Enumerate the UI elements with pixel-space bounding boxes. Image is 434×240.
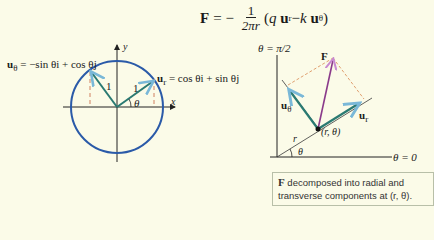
- y-axis-label: y: [123, 41, 127, 52]
- angle-label: θ: [298, 146, 303, 157]
- u-r-expression: = cos θi + sin θj: [166, 72, 239, 84]
- u-theta-vector: [92, 73, 117, 107]
- dashed-parallelogram-right: [333, 58, 364, 99]
- u-r-definition: ur = cos θi + sin θj: [157, 72, 239, 87]
- length-label-r: 1: [133, 82, 139, 94]
- u-theta-label: uθ: [281, 99, 291, 114]
- radius-label: r: [293, 133, 297, 144]
- length-label-theta: 1: [106, 80, 112, 92]
- u-theta-vector: [290, 91, 318, 129]
- force-label: F: [321, 50, 328, 62]
- point-r-theta: [316, 127, 321, 132]
- r-subscript: r: [365, 114, 368, 124]
- angle-label: θ: [134, 97, 139, 109]
- u-theta-definition: uθ = −sin θi + cos θj: [7, 58, 97, 73]
- theta-arc: [129, 99, 131, 107]
- caption-force-symbol: F: [278, 176, 285, 188]
- theta-pi-half-label: θ = π/2: [258, 42, 290, 54]
- figure-caption: F decomposed into radial and transverse …: [272, 172, 434, 206]
- point-label: (r, θ): [321, 126, 340, 137]
- force-vector: [318, 60, 333, 129]
- x-axis-label: x: [171, 96, 175, 107]
- u-theta-expression: = −sin θi + cos θj: [17, 58, 96, 70]
- caption-text: decomposed into radial and transverse co…: [278, 177, 412, 201]
- theta-arc: [290, 149, 292, 157]
- u-r-label: ur: [359, 109, 368, 124]
- theta-zero-label: θ = 0: [393, 151, 417, 163]
- theta-subscript: θ: [287, 104, 291, 114]
- dashed-parallelogram-top: [288, 58, 333, 85]
